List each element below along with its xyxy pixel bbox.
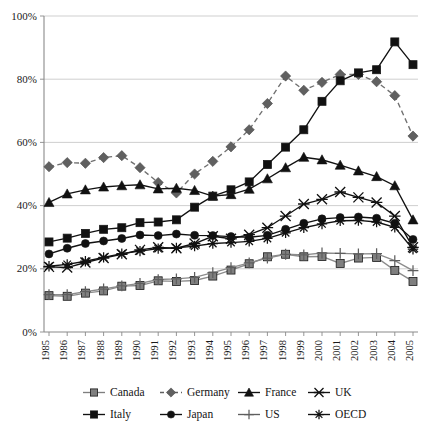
- data-point-asterisk: [314, 410, 323, 419]
- data-point-circle: [118, 234, 126, 242]
- data-point-asterisk: [335, 216, 345, 226]
- x-tick-label: 1995: [222, 340, 233, 361]
- data-point-x-cross: [298, 199, 310, 209]
- data-point-square: [90, 411, 97, 418]
- data-point-diamond: [117, 151, 127, 161]
- data-point-square: [118, 224, 126, 232]
- legend-item-japan[interactable]: Japan: [160, 408, 213, 421]
- data-point-circle: [172, 230, 180, 238]
- data-point-square: [409, 277, 417, 285]
- data-point-circle: [81, 240, 89, 248]
- legend-item-uk[interactable]: UK: [308, 386, 352, 398]
- data-point-plus: [335, 248, 346, 259]
- data-point-square: [354, 69, 362, 77]
- data-point-circle: [191, 231, 199, 239]
- data-point-square: [191, 203, 199, 211]
- data-point-asterisk: [208, 238, 218, 248]
- data-point-plus: [389, 255, 400, 266]
- data-point-square: [227, 186, 235, 194]
- data-point-square: [154, 218, 162, 226]
- data-point-x-cross: [353, 192, 365, 202]
- legend-label: France: [265, 386, 296, 398]
- data-point-circle: [136, 231, 144, 239]
- legend-label: Italy: [110, 408, 131, 421]
- data-point-circle: [63, 244, 71, 252]
- legend-label: Japan: [187, 408, 213, 421]
- legend-label: Germany: [187, 386, 230, 399]
- x-tick-label: 2002: [349, 340, 360, 361]
- data-point-circle: [45, 250, 53, 258]
- y-tick-label: 80%: [17, 73, 37, 85]
- data-point-diamond: [299, 85, 309, 95]
- series-germany: [44, 69, 418, 198]
- y-tick-label: 100%: [11, 10, 37, 22]
- y-tick-label: 40%: [17, 199, 37, 211]
- data-point-asterisk: [371, 217, 381, 227]
- data-point-diamond: [80, 158, 90, 168]
- data-point-asterisk: [226, 237, 236, 247]
- data-point-diamond: [62, 158, 72, 168]
- x-axis-group: [44, 332, 418, 336]
- legend: CanadaGermanyFranceUKItalyJapanUSOECD: [83, 386, 366, 421]
- data-point-plus: [408, 265, 419, 276]
- data-point-triangle: [44, 197, 54, 206]
- data-point-asterisk: [153, 243, 163, 253]
- data-point-asterisk: [262, 233, 272, 243]
- data-point-square: [336, 77, 344, 85]
- data-point-diamond: [208, 156, 218, 166]
- x-tick-label: 1994: [204, 339, 215, 361]
- x-tick-label: 1998: [277, 340, 288, 361]
- legend-item-oecd[interactable]: OECD: [308, 408, 366, 420]
- legend-item-germany[interactable]: Germany: [160, 386, 230, 399]
- data-point-square: [136, 219, 144, 227]
- legend-label: OECD: [335, 408, 366, 420]
- x-tick-label: 1987: [76, 340, 87, 361]
- y-tick-label: 0%: [22, 326, 37, 338]
- x-tick-label: 1993: [186, 340, 197, 361]
- data-point-square: [391, 38, 399, 46]
- data-point-asterisk: [299, 223, 309, 233]
- data-point-x-cross: [314, 388, 324, 397]
- data-point-square: [209, 192, 217, 200]
- x-tick-label: 2004: [386, 339, 397, 361]
- x-tick-label: 1992: [167, 340, 178, 361]
- data-point-square: [300, 126, 308, 134]
- data-point-diamond: [166, 388, 175, 397]
- data-point-asterisk: [390, 222, 400, 232]
- data-point-asterisk: [280, 228, 290, 238]
- legend-item-us[interactable]: US: [238, 408, 280, 420]
- data-point-x-cross: [316, 194, 328, 204]
- line-chart: 0%20%40%60%80%100% 198519861987198819891…: [0, 0, 430, 434]
- y-tick-label: 20%: [17, 262, 37, 274]
- y-tick-labels: 0%20%40%60%80%100%: [11, 10, 37, 338]
- y-axis-group: [40, 16, 44, 332]
- data-point-triangle: [408, 215, 418, 224]
- data-point-asterisk: [317, 219, 327, 229]
- x-tick-label: 1991: [149, 340, 160, 361]
- x-tick-labels: 1985198619871988198919901991199219931994…: [40, 339, 415, 361]
- x-tick-label: 2005: [404, 340, 415, 361]
- data-point-asterisk: [408, 244, 418, 254]
- data-point-square: [245, 178, 253, 186]
- data-point-triangle: [299, 152, 309, 161]
- data-point-asterisk: [353, 215, 363, 225]
- legend-item-france[interactable]: France: [238, 386, 296, 398]
- data-point-asterisk: [80, 256, 90, 266]
- data-point-asterisk: [135, 246, 145, 256]
- legend-label: US: [265, 408, 280, 420]
- data-point-asterisk: [98, 252, 108, 262]
- x-tick-label: 1985: [40, 340, 51, 361]
- data-point-square: [373, 66, 381, 74]
- data-point-diamond: [262, 98, 272, 108]
- data-point-square: [90, 389, 97, 396]
- data-point-circle: [409, 235, 417, 243]
- data-point-square: [263, 161, 271, 169]
- legend-item-canada[interactable]: Canada: [83, 386, 144, 398]
- data-point-asterisk: [189, 241, 199, 251]
- data-point-square: [391, 266, 399, 274]
- data-point-diamond: [408, 131, 418, 141]
- legend-item-italy[interactable]: Italy: [83, 408, 131, 421]
- data-point-circle: [154, 232, 162, 240]
- data-point-triangle: [262, 174, 272, 183]
- data-point-asterisk: [62, 259, 72, 269]
